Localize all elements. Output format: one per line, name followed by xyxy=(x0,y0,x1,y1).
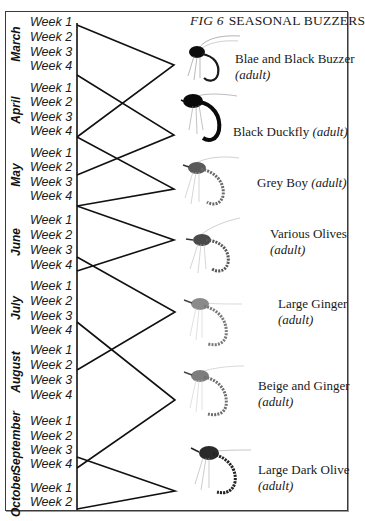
fly-illustration-grey-boy xyxy=(175,152,245,222)
fly-qualifier: (adult) xyxy=(258,394,350,410)
fly-illustration-black-duckfly xyxy=(175,90,245,150)
fly-label-various-olives: Various Olives (adult) xyxy=(270,226,347,258)
fly-label-blae-and-black-buzzer: Blae and Black Buzzer (adult) xyxy=(235,51,354,83)
fly-illustration-large-ginger xyxy=(180,292,250,362)
fly-label-grey-boy: Grey Boy (adult) xyxy=(257,175,347,191)
season-line-grey-boy xyxy=(77,137,174,206)
fly-qualifier: (adult) xyxy=(278,312,347,328)
fly-qualifier: (adult) xyxy=(311,175,346,190)
season-line-large-ginger xyxy=(77,257,175,370)
fly-label-large-ginger: Large Ginger (adult) xyxy=(278,296,347,328)
fly-label-large-dark-olive: Large Dark Olive (adult) xyxy=(258,462,349,494)
fly-qualifier: (adult) xyxy=(258,478,349,494)
fly-qualifier: (adult) xyxy=(270,242,347,258)
fly-illustration-beige-and-ginger xyxy=(180,362,250,432)
season-line-black-duckfly xyxy=(77,75,174,175)
fly-name: Large Ginger xyxy=(278,296,347,312)
fly-qualifier: (adult) xyxy=(235,67,354,83)
fly-name: Various Olives xyxy=(270,226,347,242)
fly-label-black-duckfly: Black Duckfly (adult) xyxy=(233,124,348,140)
fly-qualifier: (adult) xyxy=(312,124,347,139)
fly-name: Large Dark Olive xyxy=(258,462,349,478)
fly-label-beige-and-ginger: Beige and Ginger (adult) xyxy=(258,378,350,410)
fly-name: Blae and Black Buzzer xyxy=(235,51,354,67)
season-line-blae-and-black-buzzer xyxy=(77,25,174,137)
season-line-various-olives xyxy=(77,206,174,271)
fly-illustration-large-dark-olive xyxy=(185,440,255,505)
season-line-large-dark-olive xyxy=(77,457,175,509)
season-line-beige-and-ginger xyxy=(77,322,175,468)
fly-illustration-various-olives xyxy=(178,215,248,285)
fly-name: Beige and Ginger xyxy=(258,378,350,394)
fly-name: Grey Boy xyxy=(257,175,308,190)
fly-name: Black Duckfly xyxy=(233,124,309,139)
